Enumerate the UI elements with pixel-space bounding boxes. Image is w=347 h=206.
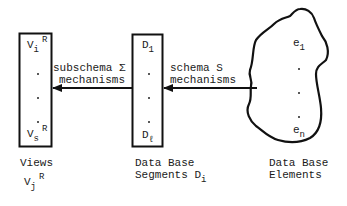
segments-caption-line1: Data Base (135, 157, 194, 169)
segment-top-label: D1 (142, 40, 154, 52)
ellipsis-dot (37, 97, 39, 99)
views-caption-symbol: VjR (24, 177, 44, 189)
element-bottom-label: en (293, 125, 305, 137)
ellipsis-dot (298, 116, 300, 118)
element-top-label: e1 (293, 38, 305, 50)
ellipsis-dot (37, 73, 39, 75)
elements-caption-line2: Elements (269, 169, 322, 181)
views-caption: Views (20, 157, 53, 169)
ellipsis-dot (298, 68, 300, 70)
ellipsis-dot (148, 73, 150, 75)
segments-caption-line2: Segments Di (135, 169, 206, 182)
view-top-label: ViR (27, 40, 47, 52)
schema-label-line2: mechanisms (170, 74, 236, 86)
view-bottom-label: VsR (27, 129, 47, 141)
ellipsis-dot (298, 92, 300, 94)
schema-label-line1: schema S (170, 62, 223, 74)
ellipsis-dot (148, 121, 150, 123)
elements-caption-line1: Data Base (269, 157, 328, 169)
subschema-label-line1: subschema Σ (53, 62, 126, 74)
ellipsis-dot (37, 121, 39, 123)
ellipsis-dot (148, 97, 150, 99)
subschema-label-line2: mechanisms (59, 74, 125, 86)
segment-bottom-label: Dℓ (142, 130, 154, 142)
elements-blob (248, 9, 328, 142)
